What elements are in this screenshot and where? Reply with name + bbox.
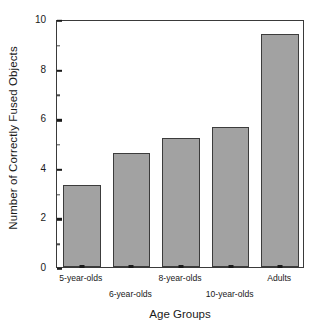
x-axis-tick-mark [278, 265, 283, 268]
x-axis-tick-labels: 5-year-olds6-year-olds8-year-olds10-year… [56, 269, 304, 309]
x-axis-tick-label: 8-year-olds [159, 273, 202, 283]
y-axis-tick-label: 10 [35, 15, 46, 25]
y-axis-title: Number of Correctly Fused Objects [7, 46, 19, 230]
y-axis-tick-mark [57, 69, 62, 71]
x-axis-tick-label: Adults [267, 273, 291, 283]
y-axis-minor-tick-mark [57, 95, 60, 96]
bar [212, 127, 250, 267]
bar [261, 34, 299, 267]
bar [63, 185, 101, 267]
x-axis-tick-mark [79, 265, 84, 268]
y-axis-tick-label: 6 [40, 114, 46, 124]
y-axis-title-container: Number of Correctly Fused Objects [0, 0, 26, 276]
y-axis-tick-mark [57, 119, 62, 121]
y-axis-tick-mark [57, 169, 62, 171]
x-axis-tick-mark [129, 265, 134, 268]
bar [162, 138, 200, 267]
y-axis-minor-tick-mark [57, 45, 60, 46]
x-axis-tick-label: 10-year-olds [206, 289, 254, 299]
x-axis-tick-mark [228, 265, 233, 268]
y-axis-tick-mark [57, 218, 62, 220]
x-axis-tick-mark [179, 265, 184, 268]
bar [113, 153, 151, 267]
plot-inner [57, 21, 303, 267]
x-axis-tick-label: 5-year-olds [59, 273, 102, 283]
y-axis-tick-label: 8 [40, 65, 46, 75]
bar-chart-figure: Number of Correctly Fused Objects 024681… [0, 0, 321, 332]
x-axis-title: Age Groups [56, 308, 304, 320]
plot-area [56, 20, 304, 268]
y-axis-tick-label: 2 [40, 213, 46, 223]
y-axis-tick-labels: 0246810 [26, 0, 50, 290]
y-axis-tick-label: 4 [40, 164, 46, 174]
y-axis-tick-mark [57, 20, 62, 22]
y-axis-minor-tick-mark [57, 194, 60, 195]
y-axis-minor-tick-mark [57, 144, 60, 145]
x-axis-tick-label: 6-year-olds [109, 289, 152, 299]
y-axis-minor-tick-mark [57, 243, 60, 244]
y-axis-tick-label: 0 [40, 263, 46, 273]
